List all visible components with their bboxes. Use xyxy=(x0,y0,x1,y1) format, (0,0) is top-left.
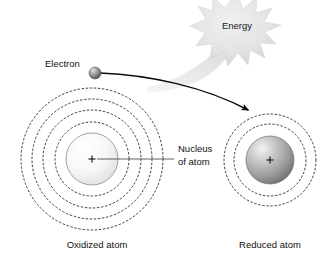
reduced-atom xyxy=(224,114,316,206)
nucleus-label-line2: of atom xyxy=(178,156,210,167)
diagram-root: Energy Nucleus xyxy=(0,0,334,256)
energy-label: Energy xyxy=(222,20,252,31)
starburst-shape xyxy=(190,0,281,66)
oxidation-reduction-diagram: Energy Nucleus xyxy=(0,0,334,256)
electron-label: Electron xyxy=(45,58,80,69)
energy-burst: Energy xyxy=(190,0,281,66)
oxidized-atom-caption: Oxidized atom xyxy=(67,239,128,250)
reduced-atom-caption: Reduced atom xyxy=(239,239,301,250)
electron-sphere xyxy=(89,67,101,79)
nucleus-label-line1: Nucleus xyxy=(178,143,213,154)
electron: Electron xyxy=(45,58,101,79)
